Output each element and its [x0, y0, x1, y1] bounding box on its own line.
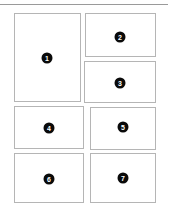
panel-badge-6: 6 [44, 174, 55, 185]
panel-badge-3: 3 [115, 78, 126, 89]
panel-badge-5: 5 [118, 122, 129, 133]
panel-badge-4: 4 [44, 123, 55, 134]
top-horizontal-rule [0, 4, 168, 5]
panel-badge-7: 7 [118, 173, 129, 184]
wireframe-canvas: 1 2 3 4 5 6 7 [0, 0, 175, 217]
panel-badge-1: 1 [42, 53, 53, 64]
panel-badge-2: 2 [115, 32, 126, 43]
